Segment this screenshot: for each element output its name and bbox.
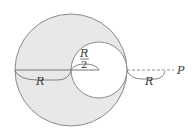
distance-label: R xyxy=(144,75,153,88)
big-radius-label: R xyxy=(35,75,44,88)
cavity-radius-denominator: 2 xyxy=(81,59,87,70)
point-label: P xyxy=(176,64,185,77)
sphere-cavity-diagram: R R 2 R P xyxy=(0,0,193,138)
